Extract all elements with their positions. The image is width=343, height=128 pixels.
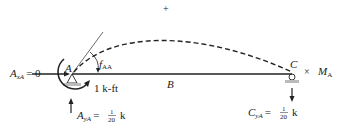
roller-support-icon <box>289 74 295 80</box>
cya-fraction-num: 1 <box>282 105 286 113</box>
point-label-b: B <box>167 78 174 90</box>
aya-fraction-num: 1 <box>110 108 114 116</box>
applied-moment-label: 1 k-ft <box>94 82 118 94</box>
cya-fraction-den: 20 <box>280 113 288 121</box>
aya-unit: k <box>120 109 126 121</box>
aya-fraction-den: 20 <box>108 116 116 124</box>
aya-arrowhead-icon <box>69 98 74 104</box>
point-label-a: A <box>64 62 72 74</box>
point-label-c: C <box>290 58 298 70</box>
sign-convention: + <box>163 3 169 14</box>
multiplier-times: × <box>304 66 310 77</box>
pin-support-icon <box>67 74 77 83</box>
multiplier-symbol: MA <box>317 65 332 79</box>
cya-arrowhead-icon <box>290 96 295 102</box>
aya-label: AyA= <box>76 109 99 123</box>
axa-label: AxA= 0 <box>9 67 41 81</box>
cya-unit: k <box>292 106 298 118</box>
roller-ground <box>285 80 299 83</box>
beam-diagram: + fAA 1 k-ft A B C AxA= 0 AyA= 1 20 k Cy… <box>0 0 343 128</box>
rotation-symbol: fAA <box>99 58 112 71</box>
cya-label: CyA= <box>248 106 271 120</box>
